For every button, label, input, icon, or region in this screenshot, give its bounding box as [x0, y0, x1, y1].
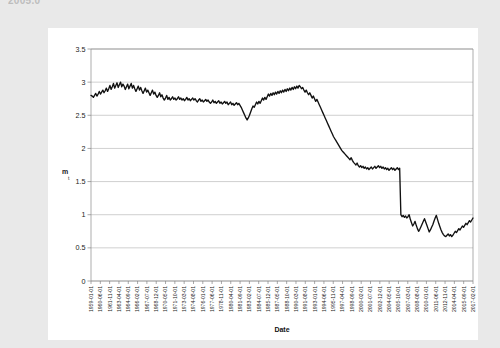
svg-text:1987-05-01: 1987-05-01 [274, 286, 280, 312]
x-axis-ticks: 1959-01-011960-06-011961-11-011963-04-01… [88, 281, 476, 312]
svg-text:2001-07-01: 2001-07-01 [367, 286, 373, 312]
svg-text:2012-11-01: 2012-11-01 [442, 286, 448, 312]
svg-text:2007-03-01: 2007-03-01 [405, 286, 411, 312]
svg-text:1968-12-01: 1968-12-01 [153, 286, 159, 312]
svg-text:2002-12-01: 2002-12-01 [377, 286, 383, 312]
svg-text:1981-09-01: 1981-09-01 [237, 286, 243, 312]
svg-text:2004-05-01: 2004-05-01 [386, 286, 392, 312]
svg-text:2010-01-01: 2010-01-01 [423, 286, 429, 312]
y-axis-label: m [62, 168, 68, 175]
svg-text:0: 0 [82, 277, 86, 286]
svg-text:1964-09-01: 1964-09-01 [125, 286, 131, 312]
x-axis-title: Date [274, 326, 289, 333]
y-axis-ticks: 00.511.522.533.5 [76, 45, 92, 286]
svg-text:2017-02-01: 2017-02-01 [470, 286, 476, 312]
chart-area: 00.511.522.533.5 1959-01-011960-06-01196… [48, 28, 478, 340]
svg-text:1.5: 1.5 [76, 177, 86, 186]
y-axis-label-subscript: t [68, 175, 70, 181]
svg-text:1960-06-01: 1960-06-01 [97, 286, 103, 312]
svg-text:1985-12-01: 1985-12-01 [265, 286, 271, 312]
svg-text:1961-11-01: 1961-11-01 [107, 286, 113, 312]
svg-text:1973-03-01: 1973-03-01 [181, 286, 187, 312]
svg-text:1959-01-01: 1959-01-01 [88, 286, 94, 312]
svg-text:1974-08-01: 1974-08-01 [190, 286, 196, 312]
svg-text:1980-04-01: 1980-04-01 [228, 286, 234, 312]
svg-text:2015-09-01: 2015-09-01 [461, 286, 467, 312]
svg-text:1978-11-01: 1978-11-01 [218, 286, 224, 312]
svg-text:1: 1 [82, 210, 86, 219]
svg-text:1977-06-01: 1977-06-01 [209, 286, 215, 312]
svg-text:2014-04-01: 2014-04-01 [451, 286, 457, 312]
svg-text:1983-02-01: 1983-02-01 [246, 286, 252, 312]
svg-text:1993-01-01: 1993-01-01 [312, 286, 318, 312]
gridlines [91, 49, 473, 281]
svg-text:1963-04-01: 1963-04-01 [116, 286, 122, 312]
axis-lines [91, 49, 473, 281]
svg-text:1966-02-01: 1966-02-01 [134, 286, 140, 312]
svg-text:1997-04-01: 1997-04-01 [339, 286, 345, 312]
data-series-line [91, 82, 473, 236]
line-chart: 00.511.522.533.5 1959-01-011960-06-01196… [48, 28, 478, 340]
svg-text:1976-01-01: 1976-01-01 [200, 286, 206, 312]
svg-text:1971-10-01: 1971-10-01 [172, 286, 178, 312]
svg-text:1994-06-01: 1994-06-01 [321, 286, 327, 312]
svg-text:0.5: 0.5 [76, 243, 86, 252]
svg-text:2.5: 2.5 [76, 111, 86, 120]
svg-text:2008-08-01: 2008-08-01 [414, 286, 420, 312]
svg-text:2000-02-01: 2000-02-01 [358, 286, 364, 312]
svg-text:1970-05-01: 1970-05-01 [162, 286, 168, 312]
svg-text:3: 3 [82, 78, 86, 87]
svg-text:3.5: 3.5 [76, 45, 86, 54]
page-root: 2005.0 00.511.522.533.5 1959-01-011960-0… [0, 0, 500, 348]
svg-text:1967-07-01: 1967-07-01 [144, 286, 150, 312]
svg-text:1990-03-01: 1990-03-01 [293, 286, 299, 312]
svg-text:1991-08-01: 1991-08-01 [302, 286, 308, 312]
svg-text:1995-11-01: 1995-11-01 [330, 286, 336, 312]
svg-text:2011-06-01: 2011-06-01 [433, 286, 439, 312]
svg-text:1998-09-01: 1998-09-01 [349, 286, 355, 312]
chart-card: 00.511.522.533.5 1959-01-011960-06-01196… [48, 28, 478, 340]
svg-text:2: 2 [82, 144, 86, 153]
svg-text:2005-10-01: 2005-10-01 [395, 286, 401, 312]
svg-text:1988-10-01: 1988-10-01 [284, 286, 290, 312]
svg-text:1984-07-01: 1984-07-01 [256, 286, 262, 312]
cutoff-header-text: 2005.0 [8, 0, 40, 6]
